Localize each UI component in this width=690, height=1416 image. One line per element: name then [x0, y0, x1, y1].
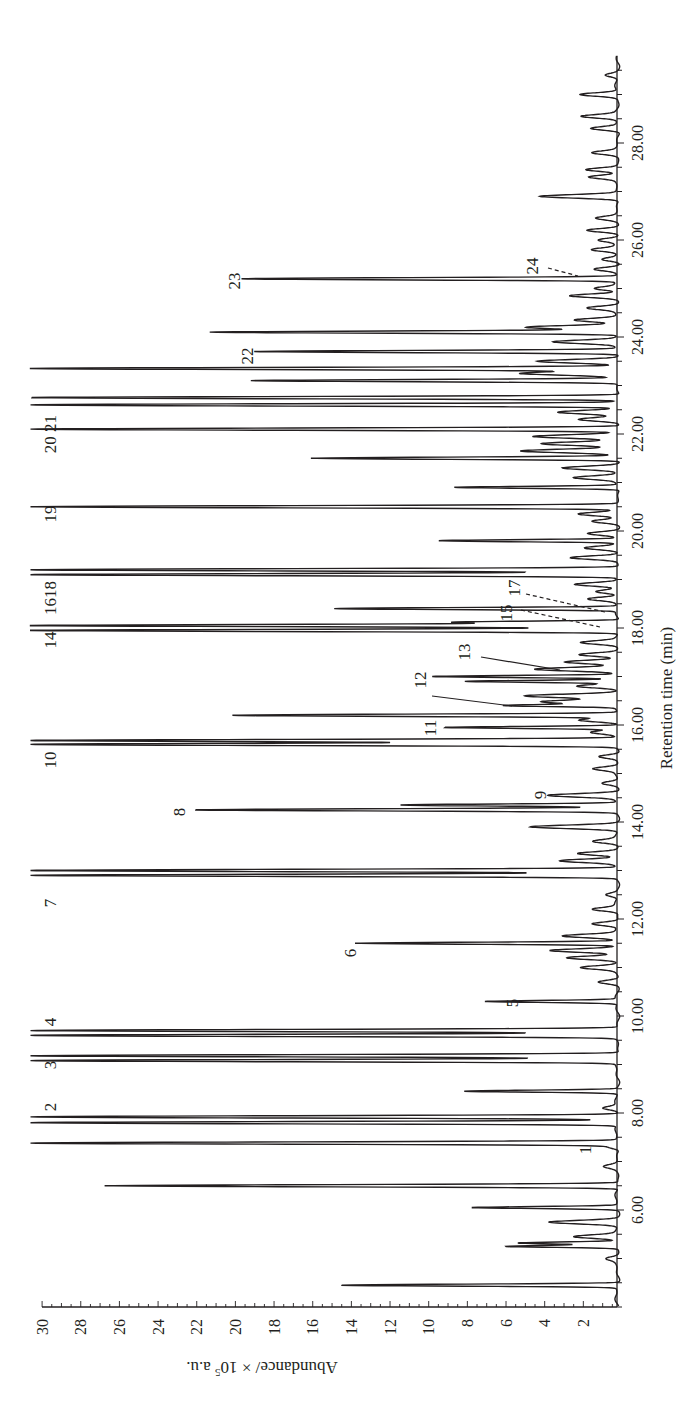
x-tick-label: 18.00 — [629, 610, 646, 646]
peak-label-9: 9 — [531, 791, 550, 800]
y-tick-label: 10 — [420, 1319, 437, 1335]
x-tick-label: 20.00 — [629, 513, 646, 549]
y-tick-label: 6 — [498, 1319, 515, 1327]
peak-label-13: 13 — [455, 644, 474, 661]
leader-13 — [481, 657, 560, 670]
peak-label-12: 12 — [411, 672, 430, 689]
y-axis-title-suffix: a.u. — [186, 1358, 215, 1377]
peak-label-6: 6 — [341, 949, 360, 958]
peak-label-8: 8 — [170, 808, 189, 817]
peak-label-14: 14 — [41, 631, 60, 649]
y-tick-label: 30 — [34, 1319, 51, 1335]
leader-17 — [526, 594, 605, 612]
chromatogram-chart: 6.008.0010.0012.0014.0016.0018.0020.0022… — [0, 0, 690, 1416]
leader-12 — [432, 696, 512, 706]
leader-15 — [521, 610, 600, 627]
x-tick-label: 22.00 — [629, 416, 646, 452]
peak-label-19: 19 — [41, 506, 60, 523]
peak-label-24: 24 — [523, 257, 542, 275]
y-tick-label: 2 — [575, 1319, 592, 1327]
peak-label-7: 7 — [41, 898, 60, 907]
peak-label-10: 10 — [41, 752, 60, 769]
y-tick-label: 22 — [188, 1319, 205, 1335]
chromatogram-line — [31, 56, 620, 1306]
peak-label-22: 22 — [238, 348, 257, 365]
x-tick-label: 6.00 — [629, 1196, 646, 1224]
chromatogram-svg: 6.008.0010.0012.0014.0016.0018.0020.0022… — [0, 0, 690, 1416]
x-axis-title: Retention time (min) — [657, 627, 676, 770]
x-tick-label: 28.00 — [629, 125, 646, 161]
y-tick-label: 28 — [72, 1319, 89, 1335]
y-tick-label: 20 — [227, 1319, 244, 1335]
x-tick-label: 10.00 — [629, 998, 646, 1034]
y-axis-title-prefix: Abundance/ × 10 — [221, 1358, 338, 1377]
peak-label-17: 17 — [505, 579, 524, 597]
chromatogram-trace — [31, 56, 620, 1306]
y-tick-label: 12 — [382, 1319, 399, 1335]
peak-label-1: 1 — [576, 1146, 595, 1155]
peak-label-15: 15 — [497, 605, 516, 622]
peak-label-2: 2 — [41, 1103, 60, 1112]
peak-label-5: 5 — [503, 999, 522, 1008]
y-tick-label: 18 — [266, 1319, 283, 1335]
peak-label-3: 3 — [41, 1061, 60, 1070]
x-tick-label: 24.00 — [629, 319, 646, 355]
peak-label-1618: 1618 — [41, 581, 60, 615]
y-tick-label: 24 — [150, 1319, 167, 1335]
y-tick-label: 8 — [459, 1319, 476, 1327]
peak-label-11: 11 — [421, 720, 440, 736]
peak-label-23: 23 — [225, 273, 244, 290]
x-tick-label: 12.00 — [629, 901, 646, 937]
y-tick-label: 4 — [536, 1319, 553, 1327]
x-tick-label: 26.00 — [629, 222, 646, 258]
x-tick-label: 14.00 — [629, 804, 646, 840]
peak-label-4: 4 — [41, 1017, 60, 1026]
y-tick-label: 26 — [111, 1319, 128, 1335]
y-axis-title: Abundance/ × 105 a.u. — [186, 1358, 338, 1379]
x-tick-label: 8.00 — [629, 1099, 646, 1127]
y-tick-label: 14 — [343, 1319, 360, 1335]
peak-label-2021: 20 21 — [41, 415, 60, 453]
x-tick-label: 16.00 — [629, 707, 646, 743]
y-tick-label: 16 — [304, 1319, 321, 1335]
leader-24 — [548, 268, 578, 276]
